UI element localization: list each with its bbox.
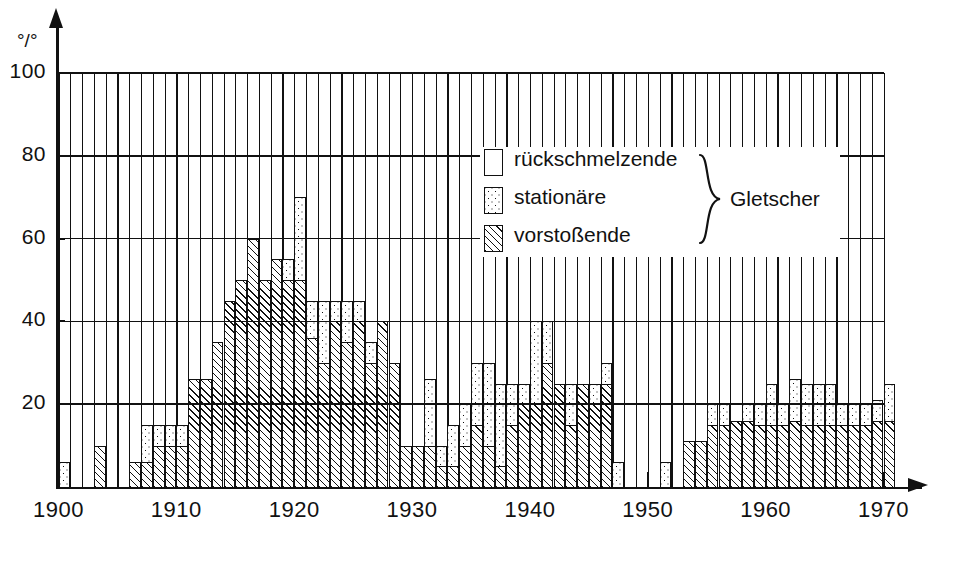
legend-swatch-dotted-icon xyxy=(484,187,503,214)
bar-1966 xyxy=(836,73,848,487)
bar-1964 xyxy=(813,73,825,487)
bar-1907 xyxy=(141,73,153,487)
bar-segment-stationaere-1934 xyxy=(459,404,471,445)
bar-segment-vorstossende-1938 xyxy=(506,425,518,487)
bar-segment-stationaere-1939 xyxy=(518,384,530,405)
bar-segment-vorstossende-1966 xyxy=(836,425,848,487)
bar-segment-vorstossende-1967 xyxy=(848,425,860,487)
plot-area xyxy=(59,73,884,487)
bar-1960 xyxy=(766,73,778,487)
bar-segment-stationaere-1970 xyxy=(884,384,896,421)
bar-segment-vorstossende-1935 xyxy=(471,425,483,487)
chart-root: °/° 20406080100 190019101920193019401950… xyxy=(0,0,960,561)
bar-segment-vorstossende-1916 xyxy=(247,239,259,487)
bar-segment-vorstossende-1955 xyxy=(707,425,719,487)
bar-segment-vorstossende-1924 xyxy=(341,342,353,487)
bar-segment-vorstossende-1912 xyxy=(200,379,212,487)
bar-segment-vorstossende-1945 xyxy=(589,404,601,487)
bar-1962 xyxy=(789,73,801,487)
bar-segment-vorstossende-1913 xyxy=(212,342,224,487)
bar-segment-vorstossende-1908 xyxy=(153,446,165,487)
bar-1967 xyxy=(848,73,860,487)
bar-1968 xyxy=(860,73,872,487)
bar-segment-vorstossende-1936 xyxy=(483,446,495,487)
bar-segment-stationaere-1900 xyxy=(59,462,71,487)
legend-brace-label: Gletscher xyxy=(730,187,820,211)
bar-1939 xyxy=(518,73,530,487)
bar-1957 xyxy=(730,73,742,487)
legend-swatch-white-icon xyxy=(484,149,503,176)
bar-segment-stationaere-1951 xyxy=(660,462,672,487)
bar-segment-stationaere-1941 xyxy=(542,321,554,362)
bar-segment-stationaere-1921 xyxy=(306,301,318,338)
bar-segment-vorstossende-1965 xyxy=(825,425,837,487)
bar-segment-vorstossende-1960 xyxy=(766,425,778,487)
gridline-y-100 xyxy=(59,72,884,74)
bar-1924 xyxy=(341,73,353,487)
gridline-x-1902 xyxy=(82,73,83,487)
bar-segment-stationaere-1933 xyxy=(447,425,459,466)
bar-1931 xyxy=(424,73,436,487)
bar-1942 xyxy=(554,73,566,487)
bar-1913 xyxy=(212,73,224,487)
bar-segment-stationaere-1922 xyxy=(318,301,330,363)
bar-segment-stationaere-1961 xyxy=(777,404,789,425)
bar-segment-stationaere-1925 xyxy=(353,301,365,322)
bar-1933 xyxy=(447,73,459,487)
x-tick-label-1960: 1960 xyxy=(740,497,791,523)
bar-segment-stationaere-1967 xyxy=(848,404,860,425)
gridline-x-1952 xyxy=(671,73,672,487)
bar-segment-vorstossende-1918 xyxy=(271,259,283,487)
bar-1944 xyxy=(577,73,589,487)
bar-segment-vorstossende-1930 xyxy=(412,446,424,487)
bar-segment-vorstossende-1942 xyxy=(554,384,566,488)
bar-1917 xyxy=(259,73,271,487)
x-axis-arrow-icon xyxy=(908,478,928,492)
bar-segment-vorstossende-1917 xyxy=(259,280,271,487)
bar-segment-vorstossende-1962 xyxy=(789,421,801,487)
bar-1965 xyxy=(825,73,837,487)
y-tick-label-60: 60 xyxy=(22,225,46,249)
bar-1970 xyxy=(884,73,896,487)
bar-segment-stationaere-1926 xyxy=(365,342,377,363)
bar-1900 xyxy=(59,73,71,487)
bar-1947 xyxy=(612,73,624,487)
x-tick-label-1910: 1910 xyxy=(151,497,202,523)
bar-segment-vorstossende-1934 xyxy=(459,446,471,487)
bar-segment-stationaere-1966 xyxy=(836,404,848,425)
bar-segment-stationaere-1945 xyxy=(589,384,601,405)
x-tick-label-1970: 1970 xyxy=(858,497,909,523)
x-tick-label-1900: 1900 xyxy=(33,497,84,523)
bar-segment-stationaere-1959 xyxy=(754,404,766,425)
y-tick-label-40: 40 xyxy=(22,307,46,331)
bar-1951 xyxy=(660,73,672,487)
bar-1935 xyxy=(471,73,483,487)
gridline-x-1950 xyxy=(648,73,649,487)
bar-1932 xyxy=(436,73,448,487)
bar-segment-vorstossende-1931 xyxy=(424,446,436,487)
legend: rückschmelzende stationäre vorstoßende G… xyxy=(480,147,840,257)
bar-segment-vorstossende-1922 xyxy=(318,363,330,487)
bar-segment-stationaere-1955 xyxy=(707,404,719,425)
bar-segment-vorstossende-1906 xyxy=(129,462,141,487)
bar-1946 xyxy=(601,73,613,487)
bar-1912 xyxy=(200,73,212,487)
bar-segment-vorstossende-1915 xyxy=(235,280,247,487)
bar-segment-vorstossende-1956 xyxy=(719,425,731,487)
y-axis-arrow-icon xyxy=(49,8,63,28)
bar-1955 xyxy=(707,73,719,487)
bar-segment-stationaere-1968 xyxy=(860,404,872,425)
bar-segment-vorstossende-1968 xyxy=(860,425,872,487)
legend-label-vorstossende: vorstoßende xyxy=(514,223,631,247)
bar-segment-vorstossende-1970 xyxy=(884,421,896,487)
bar-segment-vorstossende-1911 xyxy=(188,379,200,487)
legend-swatch-hatched-icon xyxy=(484,225,503,252)
bar-segment-vorstossende-1909 xyxy=(165,446,177,487)
y-tick-label-80: 80 xyxy=(22,142,46,166)
gridline-y-20 xyxy=(59,403,884,405)
x-tick-label-1930: 1930 xyxy=(387,497,438,523)
bar-segment-stationaere-1907 xyxy=(141,425,153,462)
bar-1938 xyxy=(506,73,518,487)
bar-1956 xyxy=(719,73,731,487)
bar-segment-vorstossende-1937 xyxy=(495,466,507,487)
